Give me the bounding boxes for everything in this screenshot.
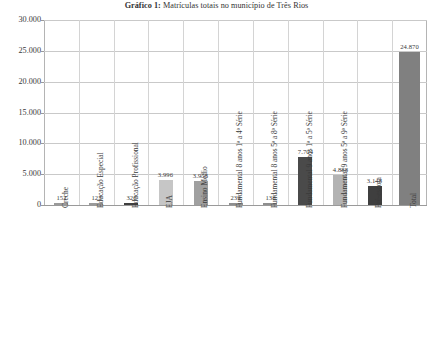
grid-line [44,51,427,52]
x-tick: Ensino Médio [183,206,218,358]
x-tick-label: Educação Especial [97,152,104,208]
x-tick: Educação Especial [79,206,114,358]
x-tick: Fundamental 8 anos 5ª a 8ª Série [253,206,288,358]
x-tick: Educação Profissional [114,206,149,358]
y-tick-label: 25.000 [1,46,41,55]
x-tick-label: EJA [166,195,173,208]
column-divider [114,20,115,205]
y-tick-label: 20.000 [1,77,41,86]
y-tick-label: 15.000 [1,108,41,117]
x-tick-label: Educação Profissional [132,142,139,208]
y-tick-label: 10.000 [1,138,41,147]
x-tick: Fundamental 8 anos 1ª a 4ª Série [218,206,253,358]
x-tick-label: Creche [62,187,69,208]
y-tick-label: 5.000 [1,169,41,178]
y-tick-label: 30.000 [1,15,41,24]
column-divider [218,20,219,205]
grid-line [44,20,427,21]
y-tick-label: 0 [1,200,41,209]
x-tick-label: Fundamental 8 anos 1ª a 4ª Série [236,111,243,208]
x-tick-label: Fundamental 9 anos 1ª a 5ª Série [306,111,313,208]
x-tick-label: Pré-escola [375,177,382,208]
bar[interactable] [399,52,420,205]
column-divider [323,20,324,205]
column-divider [79,20,80,205]
y-axis: 30.00025.00020.00015.00010.0005.0000 [0,20,41,205]
x-tick: Fundamental 9 anos 5ª a 9ª Série [323,206,358,358]
chart-title-prefix: Gráfico 1: [125,1,161,10]
chart-figure: Gráfico 1: Matrículas totais no municípi… [0,0,433,362]
bar-value-label: 3.996 [148,171,183,178]
x-tick-label: Fundamental 9 anos 5ª a 9ª Série [341,111,348,208]
bar-value-label: 24.870 [392,43,427,50]
x-tick: Pré-escola [357,206,392,358]
x-axis: CrecheEducação EspecialEducação Profissi… [44,206,427,362]
x-tick: Fundamental 9 anos 1ª a 5ª Série [288,206,323,358]
chart-title-text: Matrículas totais no município de Três R… [161,1,309,10]
x-tick: EJA [148,206,183,358]
column-divider [253,20,254,205]
x-tick: Creche [44,206,79,358]
x-tick-label: Ensino Médio [201,166,208,208]
x-tick-label: Total [410,193,417,208]
x-tick-label: Fundamental 8 anos 5ª a 8ª Série [271,111,278,208]
chart-title: Gráfico 1: Matrículas totais no municípi… [0,1,433,10]
column-divider [288,20,289,205]
grid-line [44,82,427,83]
x-tick: Total [392,206,427,358]
